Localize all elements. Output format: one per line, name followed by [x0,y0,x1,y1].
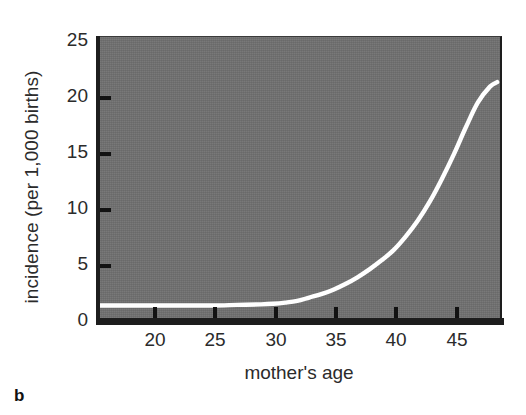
incidence-curve-svg [96,37,502,318]
x-tick-label-20: 20 [130,329,180,351]
x-tick-label-30: 30 [251,329,301,351]
y-tick-mark-5 [100,264,111,268]
x-tick-mark-30 [274,307,278,318]
x-tick-mark-40 [394,307,398,318]
y-tick-label-20: 20 [42,86,88,105]
y-tick-mark-10 [100,208,111,212]
plot-area [96,36,502,318]
x-tick-mark-20 [153,307,157,318]
y-tick-label-25: 25 [42,30,88,49]
y-axis-line [96,36,100,325]
x-tick-label-40: 40 [371,329,421,351]
y-tick-mark-20 [100,96,111,100]
x-tick-mark-45 [455,307,459,318]
figure-panel-b: incidence (per 1,000 births) 25 20 15 10… [0,0,526,415]
incidence-curve-line [96,82,497,305]
x-tick-label-25: 25 [190,329,240,351]
y-tick-mark-15 [100,152,111,156]
x-axis-title: mother's age [96,362,502,384]
y-axis-tick-labels: 25 20 15 10 5 0 [40,0,88,415]
x-tick-mark-25 [213,307,217,318]
y-tick-label-15: 15 [42,142,88,161]
x-tick-mark-35 [334,307,338,318]
x-tick-label-35: 35 [311,329,361,351]
panel-label-b: b [14,386,24,406]
y-tick-label-10: 10 [42,198,88,217]
y-tick-label-5: 5 [42,254,88,273]
x-tick-label-45: 45 [432,329,482,351]
y-tick-label-0: 0 [42,310,88,329]
x-axis-line [96,318,504,325]
